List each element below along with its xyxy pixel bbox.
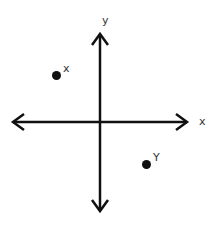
point-y-dot <box>142 160 151 169</box>
y-axis-label: y <box>102 15 109 26</box>
x-axis-label: x <box>199 116 206 127</box>
point-x-dot <box>52 71 61 80</box>
point-x-label: x <box>63 63 70 74</box>
axes-svg <box>0 0 219 227</box>
point-y-label: Y <box>153 152 160 163</box>
coordinate-plane: y x x Y <box>0 0 219 227</box>
